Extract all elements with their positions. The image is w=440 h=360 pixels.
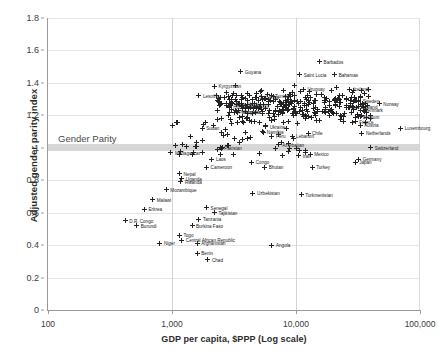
scatter-point[interactable] bbox=[212, 210, 217, 215]
scatter-point[interactable] bbox=[353, 160, 358, 165]
scatter-point[interactable] bbox=[281, 120, 286, 125]
scatter-point[interactable] bbox=[188, 134, 193, 139]
scatter-point[interactable] bbox=[368, 116, 373, 121]
scatter-point[interactable] bbox=[259, 88, 264, 93]
scatter-point[interactable] bbox=[332, 72, 337, 77]
scatter-point[interactable] bbox=[334, 85, 339, 90]
scatter-point[interactable] bbox=[359, 113, 364, 118]
scatter-point[interactable] bbox=[243, 130, 248, 135]
scatter-point[interactable] bbox=[353, 115, 358, 120]
scatter-point[interactable] bbox=[150, 197, 155, 202]
scatter-point[interactable] bbox=[249, 160, 254, 165]
scatter-point[interactable] bbox=[299, 192, 304, 197]
scatter-point[interactable] bbox=[269, 118, 274, 123]
scatter-point[interactable] bbox=[178, 179, 183, 184]
scatter-point[interactable] bbox=[239, 103, 244, 108]
scatter-point[interactable] bbox=[297, 148, 302, 153]
scatter-point[interactable] bbox=[212, 84, 217, 89]
scatter-point[interactable] bbox=[215, 108, 220, 113]
scatter-point[interactable] bbox=[190, 152, 195, 157]
scatter-point[interactable] bbox=[339, 114, 344, 119]
scatter-point[interactable] bbox=[303, 95, 308, 100]
scatter-point[interactable] bbox=[317, 118, 322, 123]
scatter-point[interactable] bbox=[231, 152, 236, 157]
scatter-point[interactable] bbox=[238, 69, 243, 74]
scatter-point[interactable] bbox=[261, 130, 266, 135]
scatter-point[interactable] bbox=[211, 123, 216, 128]
scatter-point[interactable] bbox=[258, 102, 263, 107]
scatter-point[interactable] bbox=[219, 116, 224, 121]
scatter-point[interactable] bbox=[398, 126, 403, 131]
scatter-point[interactable] bbox=[286, 102, 291, 107]
scatter-point[interactable] bbox=[286, 119, 291, 124]
scatter-point[interactable] bbox=[194, 144, 199, 149]
scatter-point[interactable] bbox=[235, 120, 240, 125]
scatter-point[interactable] bbox=[292, 83, 297, 88]
scatter-point[interactable] bbox=[351, 88, 356, 93]
scatter-point[interactable] bbox=[359, 131, 364, 136]
scatter-point[interactable] bbox=[215, 117, 220, 122]
scatter-point[interactable] bbox=[209, 157, 214, 162]
scatter-point[interactable] bbox=[279, 140, 284, 145]
scatter-point[interactable] bbox=[179, 238, 184, 243]
scatter-point[interactable] bbox=[363, 101, 368, 106]
scatter-point[interactable] bbox=[223, 127, 228, 132]
scatter-point[interactable] bbox=[291, 136, 296, 141]
scatter-point[interactable] bbox=[173, 143, 178, 148]
scatter-point[interactable] bbox=[263, 123, 268, 128]
scatter-point[interactable] bbox=[263, 96, 268, 101]
scatter-point[interactable] bbox=[262, 165, 267, 170]
scatter-point[interactable] bbox=[200, 150, 205, 155]
scatter-point[interactable] bbox=[196, 217, 201, 222]
scatter-point[interactable] bbox=[295, 121, 300, 126]
scatter-point[interactable] bbox=[190, 223, 195, 228]
scatter-point[interactable] bbox=[240, 137, 245, 142]
scatter-point[interactable] bbox=[164, 187, 169, 192]
scatter-point[interactable] bbox=[195, 251, 200, 256]
scatter-point[interactable] bbox=[257, 151, 262, 156]
scatter-point[interactable] bbox=[303, 150, 308, 155]
scatter-point[interactable] bbox=[287, 146, 292, 151]
scatter-point[interactable] bbox=[204, 165, 209, 170]
scatter-point[interactable] bbox=[168, 150, 173, 155]
scatter-point[interactable] bbox=[313, 105, 318, 110]
scatter-point[interactable] bbox=[218, 152, 223, 157]
scatter-point[interactable] bbox=[232, 136, 237, 141]
scatter-point[interactable] bbox=[248, 135, 253, 140]
scatter-point[interactable] bbox=[250, 101, 255, 106]
scatter-point[interactable] bbox=[280, 153, 285, 158]
scatter-point[interactable] bbox=[229, 121, 234, 126]
scatter-point[interactable] bbox=[250, 111, 255, 116]
scatter-point[interactable] bbox=[298, 89, 303, 94]
scatter-point[interactable] bbox=[306, 114, 311, 119]
scatter-point[interactable] bbox=[368, 145, 373, 150]
scatter-point[interactable] bbox=[246, 106, 251, 111]
scatter-point[interactable] bbox=[284, 126, 289, 131]
scatter-point[interactable] bbox=[296, 153, 301, 158]
scatter-point[interactable] bbox=[273, 146, 278, 151]
scatter-point[interactable] bbox=[196, 93, 201, 98]
scatter-point[interactable] bbox=[308, 152, 313, 157]
scatter-point[interactable] bbox=[377, 101, 382, 106]
scatter-point[interactable] bbox=[203, 120, 208, 125]
scatter-point[interactable] bbox=[313, 98, 318, 103]
scatter-point[interactable] bbox=[359, 88, 364, 93]
scatter-point[interactable] bbox=[366, 87, 371, 92]
scatter-point[interactable] bbox=[204, 205, 209, 210]
scatter-point[interactable] bbox=[225, 132, 230, 137]
scatter-point[interactable] bbox=[134, 223, 139, 228]
scatter-point[interactable] bbox=[254, 91, 259, 96]
scatter-point[interactable] bbox=[123, 218, 128, 223]
scatter-point[interactable] bbox=[337, 104, 342, 109]
scatter-point[interactable] bbox=[351, 107, 356, 112]
scatter-point[interactable] bbox=[281, 88, 286, 93]
scatter-point[interactable] bbox=[240, 119, 245, 124]
scatter-point[interactable] bbox=[217, 99, 222, 104]
scatter-point[interactable] bbox=[269, 134, 274, 139]
scatter-point[interactable] bbox=[233, 83, 238, 88]
scatter-point[interactable] bbox=[178, 149, 183, 154]
scatter-point[interactable] bbox=[298, 99, 303, 104]
scatter-point[interactable] bbox=[157, 241, 162, 246]
scatter-point[interactable] bbox=[358, 95, 363, 100]
scatter-point[interactable] bbox=[310, 165, 315, 170]
